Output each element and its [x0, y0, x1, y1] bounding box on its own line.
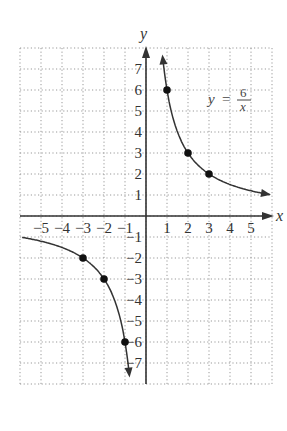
data-point	[79, 254, 87, 262]
y-tick-label: 7	[135, 61, 143, 77]
x-tick-label: 1	[163, 220, 171, 236]
curve-arrow-icon	[160, 54, 168, 64]
data-point	[205, 170, 213, 178]
equation-label: y = 6 x	[206, 85, 251, 114]
data-point	[163, 86, 171, 94]
y-tick-label: −5	[126, 313, 142, 329]
hyperbola-chart: −5−4−3−2−1123457654321−1−2−3−4−5−6−7 x y…	[0, 0, 287, 431]
equation-denominator: x	[239, 99, 246, 114]
x-tick-label: −4	[54, 220, 70, 236]
y-tick-label: −4	[126, 292, 142, 308]
x-tick-label: 5	[247, 220, 255, 236]
x-tick-label: −2	[96, 220, 112, 236]
x-axis-arrow-icon	[262, 212, 274, 220]
y-tick-label: −1	[126, 229, 142, 245]
y-tick-label: 3	[135, 145, 143, 161]
equation-numerator: 6	[240, 85, 247, 100]
y-tick-label: 2	[135, 166, 143, 182]
equation-lhs: y	[206, 91, 215, 107]
x-axis-label: x	[275, 207, 283, 224]
y-tick-label: −2	[126, 250, 142, 266]
equation-equals: =	[222, 91, 230, 107]
data-point	[121, 338, 129, 346]
y-tick-label: 4	[135, 124, 143, 140]
x-tick-label: 2	[184, 220, 192, 236]
data-point	[184, 149, 192, 157]
x-tick-label: −3	[75, 220, 91, 236]
curve-arrow-icon	[260, 189, 271, 197]
y-tick-label: 6	[135, 82, 143, 98]
y-tick-label: −3	[126, 271, 142, 287]
x-tick-label: 3	[205, 220, 213, 236]
y-tick-label: 5	[135, 103, 143, 119]
y-tick-label: 1	[135, 187, 143, 203]
y-axis-label: y	[138, 25, 148, 43]
curve-arrow-icon	[125, 367, 133, 377]
data-point	[100, 275, 108, 283]
axes	[20, 46, 274, 384]
x-tick-label: −5	[33, 220, 49, 236]
x-tick-label: 4	[226, 220, 234, 236]
